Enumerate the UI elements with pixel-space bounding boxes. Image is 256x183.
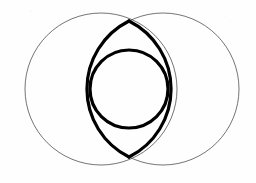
figure-svg xyxy=(0,0,256,183)
geometric-figure-canvas xyxy=(0,0,256,183)
